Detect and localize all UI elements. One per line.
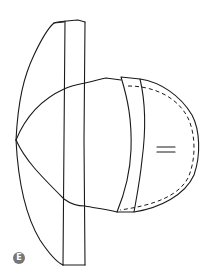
brim-outer-edge	[16, 22, 64, 265]
side-band-outline	[117, 77, 144, 212]
pattern-diagram: E	[0, 0, 214, 280]
crown-seam-bottom	[16, 140, 117, 212]
figure-label-badge: E	[13, 252, 25, 264]
brim-band-right-line	[84, 22, 85, 265]
brim-band-left-line	[63, 21, 65, 265]
crown-seam-top	[16, 78, 121, 140]
